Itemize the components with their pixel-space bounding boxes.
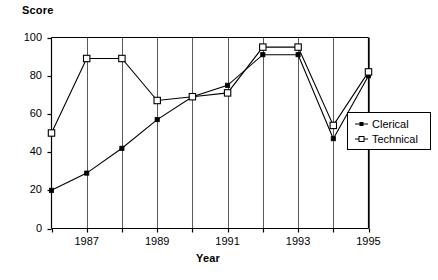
data-point-technical [330,122,336,128]
data-point-clerical [296,53,300,57]
line-chart: Score Year 020406080100 1987198919911993… [0,0,438,280]
filled-diamond-icon [355,119,368,129]
data-point-technical [189,94,195,100]
data-point-technical [224,90,230,96]
legend-item-clerical: Clerical [355,117,409,131]
data-point-technical [260,44,266,50]
data-point-technical [365,69,371,75]
data-point-clerical [331,137,335,141]
series-line-clerical [52,55,369,191]
legend-label-clerical: Clerical [372,117,409,131]
data-point-clerical [85,171,89,175]
data-point-clerical [155,118,159,122]
data-point-technical [84,55,90,61]
data-series [48,44,371,193]
legend-label-technical: Technical [372,132,418,146]
data-point-clerical [120,146,124,150]
axis-frame [52,38,369,229]
data-point-clerical [226,83,230,87]
legend-item-technical: Technical [355,132,418,146]
data-point-clerical [261,53,265,57]
series-line-technical [52,47,369,133]
legend: Clerical Technical [347,112,431,150]
data-point-technical [48,130,54,136]
open-square-icon [355,134,368,144]
data-point-technical [295,44,301,50]
data-point-technical [154,97,160,103]
data-point-technical [119,55,125,61]
data-point-clerical [49,188,53,192]
gridlines [88,38,370,229]
axis-ticks [48,39,370,233]
